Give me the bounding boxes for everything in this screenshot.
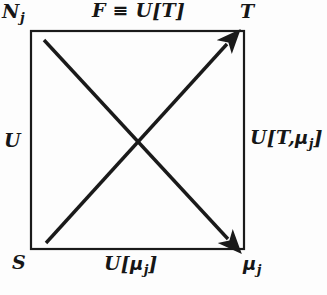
label-bottom-middle-open: U[ [104, 252, 130, 274]
label-right-close: ] [313, 126, 322, 148]
label-bottom-left-text: S [12, 251, 26, 273]
label-bottom-left-S: S [12, 253, 26, 272]
label-right-subscript: j [309, 136, 314, 151]
label-top-right-text: T [240, 0, 254, 22]
label-top-middle-free-energy: F ≡ U[T] [92, 1, 185, 20]
label-bottom-middle-close: ] [148, 252, 157, 274]
label-bottom-right-subscript: j [257, 262, 262, 277]
label-bottom-middle-greek-mu: μ [130, 253, 143, 274]
label-right-U-T-mu-j: U[T,μj] [250, 128, 323, 147]
label-top-middle-text: F ≡ U[T] [92, 0, 185, 21]
legendre-transform-diagram: Nj F ≡ U[T] T U U[T,μj] S U[μj] μj [0, 0, 327, 295]
label-bottom-right-mu-j: μj [243, 254, 261, 273]
label-bottom-right-greek-mu: μ [243, 253, 256, 274]
label-top-left-Nj: Nj [2, 2, 24, 21]
descending-diagonal-arrow [44, 40, 228, 239]
label-right-open: U[T, [250, 126, 295, 148]
label-top-left-base: N [2, 0, 20, 22]
label-right-greek-mu: μ [295, 127, 308, 148]
label-left-text: U [4, 129, 21, 151]
label-bottom-middle-U-mu-j: U[μj] [104, 254, 158, 273]
label-bottom-middle-subscript: j [144, 262, 149, 277]
label-left-U: U [4, 131, 21, 150]
label-top-right-T: T [240, 2, 254, 21]
label-top-left-subscript: j [20, 10, 25, 25]
